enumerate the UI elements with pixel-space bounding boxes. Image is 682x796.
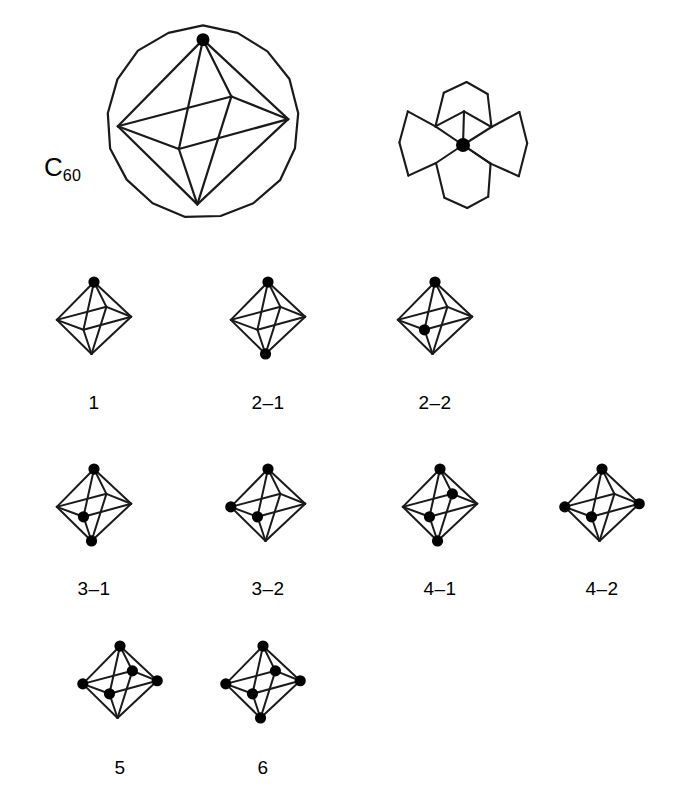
substituent-vertex-dot [257,640,268,651]
octahedron-edge [280,307,305,317]
isomer-caption-5: 5 [60,757,180,779]
isomer-caption-4-2: 4–2 [542,578,662,600]
octahedron-edge [120,646,157,681]
isomer-caption-2-2: 2–2 [375,392,495,414]
octahedron-edge [440,469,477,504]
substituent-vertex-dot [295,675,306,686]
substituent-vertex-dot [114,640,125,651]
substituent-vertex-dot [419,324,430,335]
octahedron-edge [447,307,472,317]
substituent-vertex-dot [424,511,435,522]
octahedron-edge [252,646,263,694]
substituent-vertex-dot [559,501,570,512]
isomer-caption-3-2: 3–2 [208,578,328,600]
octahedron-edge [435,282,472,317]
substituent-vertex-dot [88,463,99,474]
octahedron-wireframe [403,463,477,546]
isomer-caption-1: 1 [34,392,154,414]
octahedron-edge [94,282,131,317]
octahedron-edge [83,469,94,517]
isomer-caption-4-1: 4–1 [380,578,500,600]
isomer-caption-3-1: 3–1 [34,578,154,600]
isomer-caption-2-1: 2–1 [208,392,328,414]
octahedron-wireframe [220,640,306,723]
octahedron-edge [280,494,305,504]
substituent-vertex-dot [432,535,443,546]
substituent-vertex-dot [260,348,271,359]
octahedron-edge [109,646,120,694]
octahedron-wireframe [231,276,305,359]
substituent-vertex-dot [152,675,163,686]
figure-canvas: C60 12–12–23–13–24–14–256 [0,0,682,796]
octahedron-edge [591,469,602,517]
substituent-vertex-dot [78,511,89,522]
substituent-vertex-dot [447,488,458,499]
octahedron-edge [268,282,305,317]
octahedron-wireframe [225,463,305,541]
substituent-vertex-dot [634,498,645,509]
octahedron-wireframe [57,463,131,546]
substituent-vertex-dot [225,501,236,512]
octahedron-edge [257,469,268,517]
substituent-vertex-dot [429,276,440,287]
substituent-vertex-dot [127,665,138,676]
substituent-vertex-dot [586,511,597,522]
octahedron-edge [257,282,268,330]
substituent-vertex-dot [596,463,607,474]
octahedron-edge [106,494,131,504]
octahedron-edge [424,282,435,330]
isomer-caption-6: 6 [203,757,323,779]
substituent-vertex-dot [88,276,99,287]
substituent-vertex-dot [104,688,115,699]
substituent-vertex-dot [247,688,258,699]
substituent-vertex-dot [255,712,266,723]
substituent-vertex-dot [86,535,97,546]
substituent-vertex-dot [220,678,231,689]
substituent-vertex-dot [252,511,263,522]
octahedron-edge [429,469,440,517]
octahedron-edge [263,646,300,681]
octahedron-wireframe [398,276,472,354]
substituent-vertex-dot [77,678,88,689]
octahedron-wireframe [559,463,645,541]
substituent-vertex-dot [270,665,281,676]
octahedron-edge [268,469,305,504]
substituent-vertex-dot [434,463,445,474]
octahedron-edge [602,469,639,504]
substituent-vertex-dot [262,463,273,474]
octahedron-wireframe [57,276,131,354]
octahedron-edge [106,307,131,317]
octahedron-edge [83,282,94,330]
octahedron-wireframe [77,640,163,718]
substituent-vertex-dot [262,276,273,287]
octahedron-edge [94,469,131,504]
